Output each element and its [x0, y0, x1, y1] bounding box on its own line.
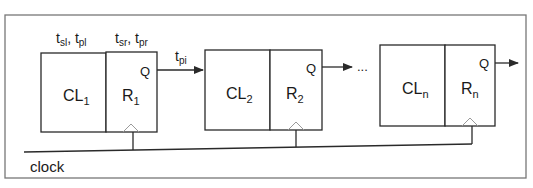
q-output-label-2: Q — [306, 61, 316, 76]
register-timing-annotation: tsr, tpr — [115, 30, 148, 48]
q-output-label-n: Q — [479, 56, 489, 71]
stage-n: CLn Rn Q — [380, 45, 518, 126]
cl-label-1: CL — [63, 87, 84, 104]
reg-label-n: R — [461, 80, 473, 97]
interconnect-timing-annotation: tpi — [175, 48, 187, 66]
ellipsis: ... — [357, 59, 368, 74]
cl-label-n: CL — [402, 80, 423, 97]
clock-label: clock — [30, 158, 65, 175]
pipeline-diagram: CL1 R1 Q CL2 R2 Q ... CLn Rn Q clock tsl… — [0, 0, 533, 188]
stage-2: CL2 R2 Q ... — [205, 50, 368, 130]
q-output-label-1: Q — [140, 64, 150, 79]
reg-label-1: R — [122, 87, 134, 104]
logic-timing-annotation: tsl, tpl — [56, 30, 87, 48]
cl-label-2: CL — [226, 85, 247, 102]
reg-label-2: R — [286, 85, 298, 102]
